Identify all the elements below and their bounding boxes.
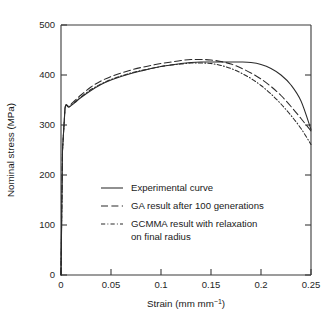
x-tick-label-005: 0.05	[102, 279, 121, 290]
x-tick-label-025: 0.25	[302, 279, 321, 290]
x-axis-title-text: Strain (mm mm	[147, 298, 214, 309]
x-tick-label-01: 0.1	[154, 279, 167, 290]
legend-label-gcmma-line2: on final radius	[131, 231, 191, 242]
series-gcmma-result	[61, 63, 311, 275]
legend-label-experimental: Experimental curve	[131, 182, 213, 193]
data-series-group	[61, 59, 311, 275]
x-tick-label-02: 0.2	[254, 279, 267, 290]
stress-strain-chart: 0 100 200 300 400 500 0 0.05 0.1 0.15 0.…	[0, 0, 336, 321]
x-axis-title: Strain (mm mm−1)	[147, 298, 225, 309]
y-tick-label-200: 200	[39, 169, 55, 180]
y-tick-label-500: 500	[39, 19, 55, 30]
x-axis-ticks: 0 0.05 0.1 0.15 0.2 0.25	[58, 269, 320, 290]
series-ga-result	[61, 59, 311, 275]
y-axis-title: Nominal stress (MPa)	[5, 103, 16, 197]
legend-label-ga: GA result after 100 generations	[131, 200, 264, 211]
chart-canvas: 0 100 200 300 400 500 0 0.05 0.1 0.15 0.…	[0, 0, 336, 321]
y-tick-label-400: 400	[39, 69, 55, 80]
legend-label-gcmma: GCMMA result with relaxation	[131, 218, 257, 229]
y-tick-label-100: 100	[39, 219, 55, 230]
y-tick-label-0: 0	[50, 269, 55, 280]
x-tick-label-015: 0.15	[202, 279, 221, 290]
y-tick-label-300: 300	[39, 119, 55, 130]
x-tick-label-0: 0	[58, 279, 63, 290]
series-experimental-curve	[61, 62, 311, 275]
chart-legend: Experimental curve GA result after 100 g…	[101, 182, 264, 242]
